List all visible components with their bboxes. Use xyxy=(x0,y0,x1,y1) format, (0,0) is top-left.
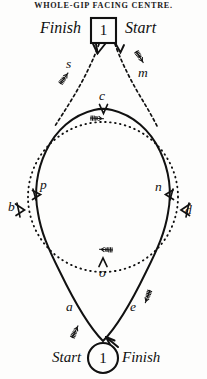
bottom-marker-number: 1 xyxy=(88,351,118,366)
feather-arrow-a xyxy=(70,324,81,339)
point-label-n: n xyxy=(155,180,162,194)
feather-arrow-e xyxy=(143,289,153,304)
bottom-start-label: Start xyxy=(52,350,81,365)
point-label-p: p xyxy=(40,178,47,192)
point-label-e: e xyxy=(130,300,136,314)
feather-arrow-c xyxy=(90,115,104,121)
bottom-finish-label: Finish xyxy=(122,350,160,365)
pen-tick-strokes xyxy=(17,189,189,217)
figure-title: WHOLE-GIP FACING CENTRE. xyxy=(0,1,207,10)
feather-arrow-o xyxy=(99,247,113,253)
point-label-d: d xyxy=(185,203,192,217)
figure-linework xyxy=(0,0,207,379)
feather-arrow-s xyxy=(58,71,70,85)
point-label-c: c xyxy=(99,89,105,103)
point-label-o: o xyxy=(99,266,106,280)
top-finish-label: Finish xyxy=(40,20,81,36)
top-marker-number: 1 xyxy=(91,23,116,38)
point-label-b: b xyxy=(8,200,15,214)
skating-figure-diagram: WHOLE-GIP FACING CENTRE. Finish 1 Start … xyxy=(0,0,207,379)
solid-loop-path xyxy=(36,109,169,341)
feather-arrow-m xyxy=(134,50,146,65)
point-label-s: s xyxy=(66,57,71,71)
point-label-m: m xyxy=(138,66,148,80)
point-label-a: a xyxy=(66,300,73,314)
top-start-label: Start xyxy=(125,20,156,36)
